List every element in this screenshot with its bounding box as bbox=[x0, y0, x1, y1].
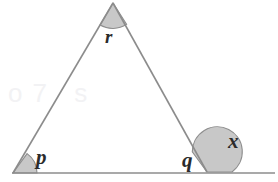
geometry-figure: o7 s r p q x bbox=[0, 0, 278, 182]
angle-label-r: r bbox=[105, 27, 112, 46]
triangle-side-right bbox=[113, 3, 207, 172]
angle-arc-p bbox=[13, 154, 37, 173]
angle-label-q: q bbox=[182, 150, 193, 171]
angle-label-x: x bbox=[228, 131, 239, 152]
angle-arc-r bbox=[100, 3, 127, 28]
triangle-side-left bbox=[13, 3, 113, 173]
angle-label-p: p bbox=[36, 147, 47, 168]
